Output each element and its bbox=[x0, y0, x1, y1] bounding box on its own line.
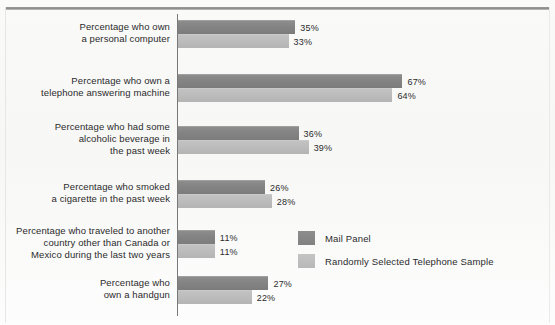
bar-mail-panel: 27% bbox=[178, 276, 268, 290]
legend-item: Mail Panel bbox=[298, 229, 494, 247]
bar-telephone-sample: 64% bbox=[178, 88, 392, 102]
bar-value-label: 28% bbox=[277, 197, 296, 207]
bar-stack: 67%64% bbox=[178, 74, 402, 102]
category-label: Percentage who own a telephone answering… bbox=[0, 75, 170, 100]
bar-value-label: 11% bbox=[220, 247, 238, 257]
bar-value-label: 39% bbox=[314, 143, 333, 153]
category-label: Percentage who own a personal computer bbox=[0, 21, 170, 46]
legend-label: Mail Panel bbox=[325, 233, 371, 244]
category-label: Percentage who smoked a cigarette in the… bbox=[0, 181, 170, 206]
category-label: Percentage who own a handgun bbox=[0, 277, 170, 302]
bar-value-label: 64% bbox=[397, 91, 416, 101]
bar-chart-figure: Percentage who own a personal computer35… bbox=[0, 0, 555, 325]
bar-stack: 26%28% bbox=[178, 180, 272, 208]
bar-stack: 11%11% bbox=[178, 230, 215, 258]
bar-value-label: 11% bbox=[220, 233, 238, 243]
bar-value-label: 67% bbox=[407, 77, 426, 87]
bar-telephone-sample: 39% bbox=[178, 140, 309, 154]
bar-value-label: 26% bbox=[270, 183, 289, 193]
bar-stack: 36%39% bbox=[178, 126, 309, 154]
bar-telephone-sample: 28% bbox=[178, 194, 272, 208]
plot-area: Percentage who own a personal computer35… bbox=[0, 0, 555, 325]
bar-value-label: 35% bbox=[300, 23, 319, 33]
category-label: Percentage who had some alcoholic bevera… bbox=[0, 121, 170, 158]
bar-telephone-sample: 33% bbox=[178, 34, 289, 48]
bar-value-label: 27% bbox=[273, 279, 292, 289]
bar-value-label: 33% bbox=[294, 37, 313, 47]
bar-mail-panel: 26% bbox=[178, 180, 265, 194]
chart-legend: Mail PanelRandomly Selected Telephone Sa… bbox=[298, 229, 494, 275]
bar-telephone-sample: 11% bbox=[178, 244, 215, 258]
bar-value-label: 22% bbox=[257, 293, 276, 303]
bar-mail-panel: 36% bbox=[178, 126, 299, 140]
legend-label: Randomly Selected Telephone Sample bbox=[325, 256, 494, 267]
bar-stack: 27%22% bbox=[178, 276, 268, 304]
bar-value-label: 36% bbox=[304, 129, 323, 139]
bar-telephone-sample: 22% bbox=[178, 290, 252, 304]
legend-swatch bbox=[298, 254, 315, 268]
legend-item: Randomly Selected Telephone Sample bbox=[298, 252, 494, 270]
bar-mail-panel: 35% bbox=[178, 20, 295, 34]
bar-stack: 35%33% bbox=[178, 20, 295, 48]
legend-swatch bbox=[298, 231, 315, 245]
bar-mail-panel: 11% bbox=[178, 230, 215, 244]
bar-mail-panel: 67% bbox=[178, 74, 402, 88]
category-label: Percentage who traveled to another count… bbox=[0, 225, 170, 262]
